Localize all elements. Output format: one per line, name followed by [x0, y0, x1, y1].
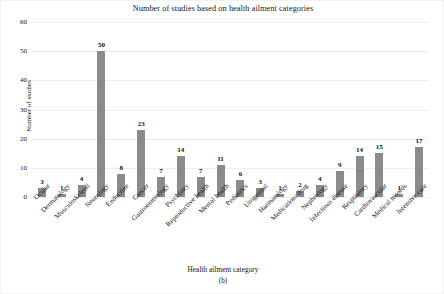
bar-value-label: 9: [338, 161, 342, 169]
bar-value-label: 15: [376, 143, 383, 151]
bar-slot: 9: [330, 22, 350, 197]
bar-value-label: 14: [356, 146, 363, 154]
bar-slot: 1: [389, 22, 409, 197]
bar-slot: 50: [92, 22, 112, 197]
bar-value-label: 4: [80, 175, 84, 183]
bar-slot: 1: [270, 22, 290, 197]
bar-value-label: 23: [138, 120, 145, 128]
bar: [97, 51, 105, 197]
y-axis-tick-label: 20: [20, 135, 27, 143]
bar-series: 314508237147116312491415117: [32, 22, 429, 197]
bar-value-label: 14: [177, 146, 184, 154]
bar-slot: 17: [409, 22, 429, 197]
y-axis-tick-label: 0: [24, 193, 28, 201]
x-axis-label: Health ailment category: [1, 265, 444, 274]
y-axis-tick-label: 30: [20, 106, 27, 114]
bar-slot: 7: [151, 22, 171, 197]
bar-value-label: 7: [199, 167, 203, 175]
bar-slot: 6: [231, 22, 251, 197]
bar-slot: 3: [250, 22, 270, 197]
bar-slot: 23: [131, 22, 151, 197]
bar-slot: 2: [290, 22, 310, 197]
y-axis-tick-label: 40: [20, 76, 27, 84]
plot-area: 0102030405060 31450823714711631249141511…: [32, 22, 429, 197]
bar-value-label: 6: [239, 170, 243, 178]
bar-slot: 15: [369, 22, 389, 197]
figure-panel: Number of studies based on health ailmen…: [0, 0, 444, 294]
bar-value-label: 4: [318, 175, 322, 183]
bar-value-label: 7: [159, 167, 163, 175]
figure-caption: (b): [1, 277, 444, 285]
bar-slot: 11: [211, 22, 231, 197]
y-axis-tick-label: 60: [20, 18, 27, 26]
bar-slot: 14: [171, 22, 191, 197]
bar-value-label: 8: [120, 164, 124, 172]
bar-value-label: 50: [98, 41, 105, 49]
bar-value-label: 11: [217, 155, 224, 163]
bar-slot: 4: [72, 22, 92, 197]
bar-slot: 8: [111, 22, 131, 197]
bar-value-label: 17: [416, 137, 423, 145]
bar-slot: 14: [350, 22, 370, 197]
bar-slot: 1: [52, 22, 72, 197]
y-axis-tick-label: 50: [20, 47, 27, 55]
bar-slot: 3: [32, 22, 52, 197]
bar-slot: 4: [310, 22, 330, 197]
y-axis-tick-label: 10: [20, 164, 27, 172]
bar-slot: 7: [191, 22, 211, 197]
chart-title: Number of studies based on health ailmen…: [1, 4, 444, 13]
